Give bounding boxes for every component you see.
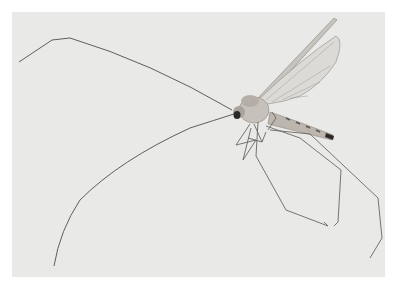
eye <box>234 111 241 119</box>
photo-frame: Insect photograph on light gray backgrou… <box>0 0 396 286</box>
insect-photo <box>0 0 396 286</box>
